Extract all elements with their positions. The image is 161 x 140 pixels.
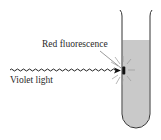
fluorescence-diagram [0, 0, 161, 140]
incident-light-label: Violet light [10, 76, 53, 86]
wavy-light-ray [10, 69, 118, 71]
emission-spot [122, 67, 125, 75]
leader-line [100, 51, 121, 68]
fluorescence-label: Red fluorescence [42, 40, 108, 50]
liquid [123, 40, 150, 128]
